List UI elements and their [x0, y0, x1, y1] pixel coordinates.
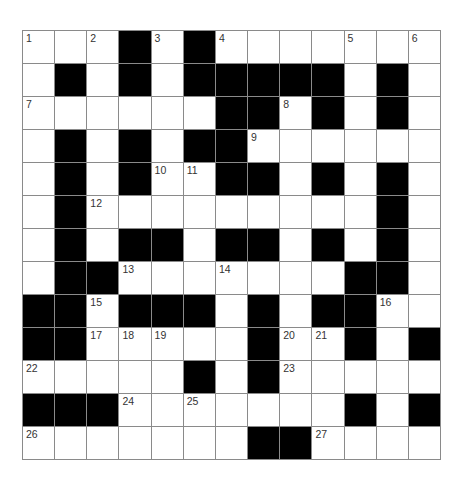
answer-cell[interactable] — [408, 96, 440, 129]
answer-cell[interactable] — [344, 195, 376, 228]
answer-cell[interactable] — [86, 426, 118, 459]
answer-cell[interactable] — [22, 129, 54, 162]
answer-cell[interactable] — [279, 129, 311, 162]
answer-cell[interactable] — [279, 261, 311, 294]
answer-cell[interactable] — [151, 426, 183, 459]
answer-cell[interactable] — [183, 261, 215, 294]
answer-cell[interactable] — [408, 261, 440, 294]
answer-cell[interactable]: 17 — [86, 327, 118, 360]
answer-cell[interactable] — [86, 96, 118, 129]
answer-cell[interactable]: 20 — [279, 327, 311, 360]
answer-cell[interactable] — [344, 360, 376, 393]
answer-cell[interactable] — [151, 261, 183, 294]
answer-cell[interactable] — [22, 261, 54, 294]
answer-cell[interactable] — [408, 129, 440, 162]
answer-cell[interactable] — [408, 162, 440, 195]
answer-cell[interactable] — [86, 162, 118, 195]
answer-cell[interactable] — [311, 360, 343, 393]
answer-cell[interactable] — [215, 426, 247, 459]
answer-cell[interactable] — [86, 63, 118, 96]
answer-cell[interactable] — [376, 30, 408, 63]
answer-cell[interactable]: 22 — [22, 360, 54, 393]
answer-cell[interactable] — [311, 195, 343, 228]
answer-cell[interactable] — [183, 195, 215, 228]
answer-cell[interactable] — [151, 360, 183, 393]
answer-cell[interactable] — [408, 426, 440, 459]
answer-cell[interactable] — [344, 96, 376, 129]
answer-cell[interactable] — [54, 360, 86, 393]
answer-cell[interactable] — [408, 228, 440, 261]
answer-cell[interactable]: 19 — [151, 327, 183, 360]
answer-cell[interactable] — [118, 96, 150, 129]
answer-cell[interactable] — [279, 162, 311, 195]
answer-cell[interactable]: 1 — [22, 30, 54, 63]
answer-cell[interactable] — [183, 426, 215, 459]
answer-cell[interactable] — [86, 228, 118, 261]
answer-cell[interactable] — [311, 261, 343, 294]
answer-cell[interactable] — [86, 129, 118, 162]
answer-cell[interactable] — [118, 360, 150, 393]
answer-cell[interactable] — [279, 30, 311, 63]
answer-cell[interactable] — [344, 228, 376, 261]
answer-cell[interactable]: 13 — [118, 261, 150, 294]
answer-cell[interactable] — [118, 426, 150, 459]
answer-cell[interactable] — [215, 294, 247, 327]
answer-cell[interactable] — [54, 96, 86, 129]
answer-cell[interactable] — [376, 426, 408, 459]
answer-cell[interactable] — [279, 393, 311, 426]
answer-cell[interactable] — [54, 30, 86, 63]
answer-cell[interactable] — [376, 129, 408, 162]
answer-cell[interactable] — [247, 30, 279, 63]
answer-cell[interactable] — [408, 360, 440, 393]
answer-cell[interactable] — [279, 228, 311, 261]
answer-cell[interactable] — [311, 30, 343, 63]
answer-cell[interactable] — [22, 63, 54, 96]
answer-cell[interactable] — [279, 294, 311, 327]
answer-cell[interactable]: 26 — [22, 426, 54, 459]
answer-cell[interactable]: 15 — [86, 294, 118, 327]
answer-cell[interactable]: 23 — [279, 360, 311, 393]
answer-cell[interactable]: 8 — [279, 96, 311, 129]
answer-cell[interactable] — [22, 195, 54, 228]
answer-cell[interactable] — [376, 360, 408, 393]
answer-cell[interactable]: 25 — [183, 393, 215, 426]
answer-cell[interactable]: 10 — [151, 162, 183, 195]
answer-cell[interactable]: 6 — [408, 30, 440, 63]
answer-cell[interactable] — [86, 360, 118, 393]
answer-cell[interactable]: 16 — [376, 294, 408, 327]
answer-cell[interactable] — [151, 195, 183, 228]
answer-cell[interactable] — [247, 393, 279, 426]
answer-cell[interactable]: 21 — [311, 327, 343, 360]
answer-cell[interactable] — [376, 393, 408, 426]
answer-cell[interactable] — [344, 162, 376, 195]
answer-cell[interactable] — [279, 195, 311, 228]
answer-cell[interactable] — [344, 129, 376, 162]
answer-cell[interactable] — [376, 327, 408, 360]
answer-cell[interactable] — [151, 393, 183, 426]
answer-cell[interactable] — [215, 195, 247, 228]
answer-cell[interactable]: 14 — [215, 261, 247, 294]
answer-cell[interactable] — [22, 228, 54, 261]
answer-cell[interactable]: 27 — [311, 426, 343, 459]
answer-cell[interactable] — [183, 96, 215, 129]
answer-cell[interactable]: 7 — [22, 96, 54, 129]
answer-cell[interactable] — [118, 195, 150, 228]
answer-cell[interactable]: 5 — [344, 30, 376, 63]
answer-cell[interactable] — [215, 327, 247, 360]
answer-cell[interactable] — [311, 393, 343, 426]
answer-cell[interactable] — [183, 228, 215, 261]
answer-cell[interactable]: 4 — [215, 30, 247, 63]
answer-cell[interactable]: 24 — [118, 393, 150, 426]
answer-cell[interactable] — [311, 129, 343, 162]
answer-cell[interactable] — [215, 393, 247, 426]
answer-cell[interactable]: 18 — [118, 327, 150, 360]
answer-cell[interactable] — [408, 294, 440, 327]
answer-cell[interactable] — [247, 261, 279, 294]
answer-cell[interactable] — [151, 96, 183, 129]
answer-cell[interactable]: 3 — [151, 30, 183, 63]
answer-cell[interactable] — [22, 162, 54, 195]
answer-cell[interactable] — [344, 63, 376, 96]
answer-cell[interactable] — [344, 426, 376, 459]
answer-cell[interactable] — [183, 327, 215, 360]
answer-cell[interactable]: 11 — [183, 162, 215, 195]
